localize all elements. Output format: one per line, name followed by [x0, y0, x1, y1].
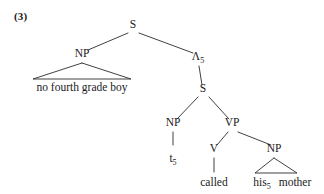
tree-node-s-top: S	[130, 18, 136, 30]
tree-object-triangle	[255, 158, 297, 173]
syntax-tree-diagram: SNPΛ5SNPVPVNP no fourth grade boyt5calle…	[0, 0, 324, 194]
terminal-layer: no fourth grade boyt5calledhis5mother	[36, 81, 311, 191]
tree-node-np-trace: NP	[166, 116, 181, 128]
tree-node-np-object: NP	[267, 142, 282, 154]
tree-terminal-object-noun: mother	[279, 176, 312, 188]
tree-node-s-embedded: S	[200, 82, 206, 94]
tree-terminal-verb: called	[200, 176, 228, 188]
tree-node-lambda: Λ5	[192, 50, 204, 65]
tree-node-np-subject: NP	[75, 47, 90, 59]
tree-branch-vp-to-v	[217, 132, 228, 145]
tree-terminal-trace: t5	[169, 152, 176, 167]
branch-layer	[88, 33, 271, 172]
tree-terminal-subject-phrase: no fourth grade boy	[36, 81, 127, 94]
tree-subject-triangle	[33, 63, 131, 79]
tree-branch-s-top-to-np	[88, 33, 128, 50]
syntax-tree-figure: (3) SNPΛ5SNPVPVNP no fourth grade boyt5c…	[0, 0, 324, 194]
tree-branch-s-top-to-lambda	[139, 33, 193, 53]
tree-terminal-possessive: his5	[253, 176, 270, 191]
tree-node-v: V	[210, 142, 219, 154]
tree-node-vp: VP	[225, 116, 240, 128]
